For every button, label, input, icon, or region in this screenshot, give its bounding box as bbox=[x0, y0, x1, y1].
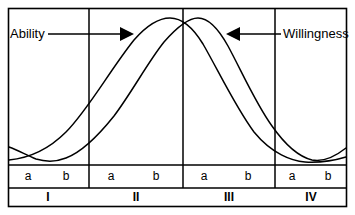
ability-willingness-diagram: Ability Willingness a b a b a b a b I II… bbox=[0, 0, 355, 215]
sub-label-iv-b: b bbox=[316, 170, 340, 182]
sub-label-ii-b: b bbox=[144, 170, 168, 182]
willingness-label: Willingness bbox=[283, 27, 349, 40]
sub-label-iii-a: a bbox=[192, 170, 216, 182]
zone-numeral-ii: II bbox=[121, 191, 151, 203]
zone-numeral-iii: III bbox=[214, 191, 244, 203]
ability-label: Ability bbox=[10, 27, 45, 40]
sub-label-i-b: b bbox=[54, 170, 78, 182]
sub-label-iv-a: a bbox=[280, 170, 304, 182]
zone-numeral-i: I bbox=[33, 191, 63, 203]
zone-numeral-iv: IV bbox=[296, 191, 326, 203]
sub-label-iii-b: b bbox=[236, 170, 260, 182]
sub-label-i-a: a bbox=[16, 170, 40, 182]
sub-label-ii-a: a bbox=[99, 170, 123, 182]
